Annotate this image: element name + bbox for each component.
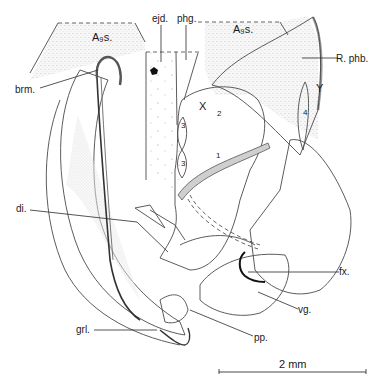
label-grl: grl.: [76, 324, 90, 335]
anatomical-figure: A₉s. A₉s. ejd. phg. brm. R. phb. X Y 2 3…: [0, 0, 378, 389]
label-r-phb: R. phb.: [336, 53, 368, 64]
label-y: Y: [316, 82, 324, 94]
sclerite-1: [178, 143, 270, 200]
label-pp: pp.: [254, 332, 268, 343]
label-3b: 3: [181, 159, 186, 168]
label-4: 4: [303, 108, 308, 117]
a9-sternite-right: [198, 16, 318, 140]
basal-rim: [97, 57, 140, 320]
gonostylus-hook: [160, 328, 190, 345]
label-a9s-left: A₉s.: [92, 31, 112, 43]
label-ejd: ejd.: [152, 13, 168, 24]
label-fx: fx.: [339, 266, 350, 277]
label-phg: phg.: [177, 13, 196, 24]
label-a9s-right: A₉s.: [233, 23, 253, 35]
label-3a: 3: [181, 121, 186, 130]
label-1: 1: [216, 151, 221, 160]
scale-bar-label: 2 mm: [279, 358, 307, 370]
a9-sternite-left: [30, 23, 145, 80]
label-x: X: [199, 100, 207, 112]
label-brm: brm.: [15, 84, 35, 95]
right-lobe: [250, 140, 351, 294]
scale-bar: 2 mm: [219, 358, 366, 374]
ejaculatory-duct: [146, 52, 200, 195]
label-di: di.: [16, 203, 27, 214]
penis-apex: [160, 295, 188, 323]
ventral-genital-plate: [200, 254, 289, 315]
label-vg: vg.: [298, 304, 311, 315]
label-2: 2: [217, 109, 222, 118]
